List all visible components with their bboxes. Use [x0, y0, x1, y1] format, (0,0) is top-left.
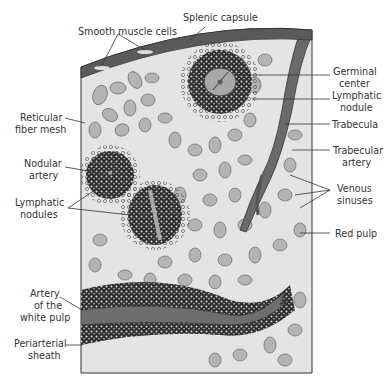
label-trabecular-artery-2: artery	[342, 157, 371, 168]
spleen-diagram: Splenic capsule Smooth muscle cells Germ…	[0, 0, 387, 386]
label-smooth-muscle-cells: Smooth muscle cells	[78, 26, 177, 37]
label-periarterial-sheath-2: sheath	[28, 350, 61, 361]
label-venous-sinuses-2: sinuses	[337, 195, 373, 206]
label-trabecular-artery: Trabecular	[332, 145, 383, 156]
tissue-block	[80, 28, 312, 373]
label-trabecula: Trabecula	[331, 119, 378, 130]
label-reticular-fiber-mesh: Reticular	[20, 112, 62, 123]
label-red-pulp: Red pulp	[335, 228, 377, 239]
label-lymphatic-nodule: Lymphatic	[332, 90, 381, 101]
label-venous-sinuses: Venous	[337, 183, 372, 194]
label-lymphatic-nodules-2: nodules	[20, 209, 58, 220]
label-lymphatic-nodule-2: nodule	[340, 102, 373, 113]
nodular-artery	[108, 171, 112, 175]
label-reticular-fiber-mesh-2: fiber mesh	[15, 124, 66, 135]
label-splenic-capsule: Splenic capsule	[183, 12, 258, 23]
label-germinal-center: Germinal	[333, 66, 377, 77]
label-periarterial-sheath: Periarterial	[14, 338, 67, 349]
label-lymphatic-nodules: Lymphatic	[15, 197, 64, 208]
label-germinal-center-2: center	[339, 78, 370, 89]
label-artery-white-pulp: Artery	[30, 288, 60, 299]
label-nodular-artery-2: artery	[29, 170, 58, 181]
label-nodular-artery: Nodular	[24, 158, 62, 169]
smooth-muscle-cell	[137, 50, 153, 54]
smooth-muscle-cell	[94, 66, 110, 70]
label-artery-white-pulp-2: of the	[34, 300, 62, 311]
label-artery-white-pulp-3: white pulp	[20, 312, 70, 323]
